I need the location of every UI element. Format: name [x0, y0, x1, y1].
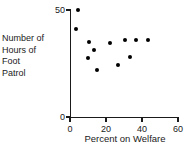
- plot-area: 050 0204060: [70, 10, 178, 117]
- y-axis-title: Number of Hours of Foot Patrol: [2, 33, 60, 79]
- data-point: [87, 40, 91, 44]
- y-axis-title-line-3: Foot: [2, 56, 60, 68]
- y-axis-title-line-1: Number of: [2, 33, 60, 45]
- data-point: [146, 38, 150, 42]
- data-point: [74, 27, 78, 31]
- y-tick-50: [66, 9, 71, 10]
- x-axis-title: Percent on Welfare: [70, 133, 180, 144]
- data-point: [86, 56, 90, 60]
- data-point: [108, 41, 112, 45]
- data-point: [76, 8, 80, 12]
- y-tick-label-0: 0: [60, 112, 65, 122]
- data-point: [95, 68, 99, 72]
- x-tick-60: [177, 117, 178, 122]
- y-axis-title-line-2: Hours of: [2, 45, 60, 57]
- data-point: [92, 48, 96, 52]
- data-point: [123, 38, 127, 42]
- x-axis-line: [70, 117, 179, 118]
- data-point: [128, 55, 132, 59]
- scatter-plot-screenshot: Number of Hours of Foot Patrol 050 02040…: [0, 0, 188, 155]
- x-tick-0: [69, 117, 70, 122]
- y-tick-label-50: 50: [55, 5, 65, 15]
- x-tick-40: [141, 117, 142, 122]
- y-axis-title-line-4: Patrol: [2, 68, 60, 80]
- x-tick-20: [105, 117, 106, 122]
- data-point: [116, 63, 120, 67]
- data-point: [134, 38, 138, 42]
- y-axis-line: [70, 10, 71, 118]
